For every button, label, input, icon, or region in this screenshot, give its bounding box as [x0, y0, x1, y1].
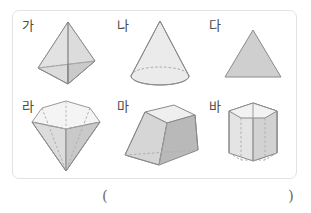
triangular-pyramid-figure	[16, 14, 111, 98]
answer-row: ( )	[0, 181, 311, 213]
triangle-figure	[203, 14, 298, 98]
shape-cell-ma: 마	[111, 95, 206, 179]
answer-close-paren: )	[288, 187, 294, 205]
shape-cell-da: 다	[203, 14, 298, 98]
square-frustum-figure	[111, 95, 206, 179]
cone-figure	[111, 14, 206, 98]
hexagonal-prism-figure	[203, 95, 298, 179]
shape-panel: 가 나 다	[12, 10, 297, 179]
answer-open-paren: (	[102, 187, 108, 205]
shape-cell-ra: 라	[16, 95, 111, 179]
shape-cell-ba: 바	[203, 95, 298, 179]
shape-cell-na: 나	[111, 14, 206, 98]
geometry-worksheet: 가 나 다	[0, 0, 311, 213]
shape-cell-ga: 가	[16, 14, 111, 98]
hexagonal-bipyramid-figure	[16, 95, 111, 179]
